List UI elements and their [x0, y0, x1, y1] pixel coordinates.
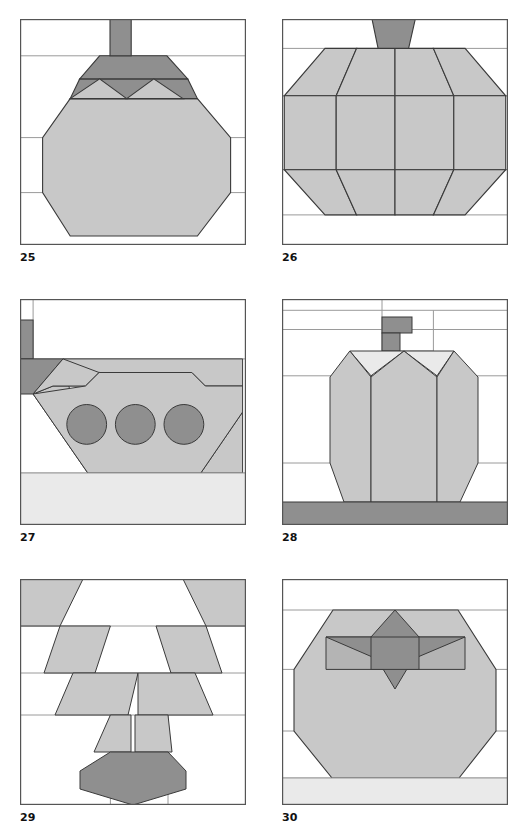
pumpkin-mid-left [336, 96, 395, 170]
basket-egg-left [67, 405, 107, 445]
pepper-stem-lower [382, 333, 400, 351]
block-cell-29: 29 [0, 560, 262, 838]
block-cell-26: 26 [262, 0, 524, 279]
eggplant-stem [110, 19, 131, 56]
quilt-block-29-diagram [20, 579, 246, 805]
quilt-block-30-diagram [282, 579, 508, 805]
pepper-lobe-left [330, 351, 371, 502]
pumpkin-lobes [284, 48, 505, 215]
pumpkin-stem [372, 19, 415, 48]
block-cell-30: 30 [262, 560, 524, 838]
basket-ground-strip [20, 473, 246, 525]
block-label-30: 30 [282, 812, 298, 824]
pepper-stem-upper [382, 317, 412, 333]
pepper-lobe-center [371, 351, 437, 502]
pattern-sheet: 25 [0, 0, 525, 838]
basket-egg-right [164, 405, 204, 445]
block-cell-25: 25 [0, 0, 262, 279]
block-label-26: 26 [282, 252, 298, 264]
basket-egg-center [115, 405, 155, 445]
pumpkin-mid-far-left [284, 96, 336, 170]
block-label-25: 25 [20, 252, 36, 264]
pepper-base-shadow [282, 502, 508, 525]
pumpkin-mid-far-right [454, 96, 506, 170]
quilt-block-25-diagram [20, 19, 246, 245]
basket-handle-upright [20, 320, 33, 359]
tomato-ground-strip [282, 778, 508, 805]
pumpkin-mid-right [395, 96, 454, 170]
eggplant-body [43, 99, 231, 236]
block-label-27: 27 [20, 532, 36, 544]
block-cell-27: 27 [0, 280, 262, 559]
block-label-28: 28 [282, 532, 298, 544]
tomato-calyx-core [371, 637, 419, 669]
beet-leaf-stem-right [135, 715, 172, 752]
quilt-block-28-diagram [282, 299, 508, 525]
block-label-29: 29 [20, 812, 36, 824]
quilt-block-26-diagram [282, 19, 508, 245]
quilt-block-27-diagram [20, 299, 246, 525]
block-cell-28: 28 [262, 280, 524, 559]
